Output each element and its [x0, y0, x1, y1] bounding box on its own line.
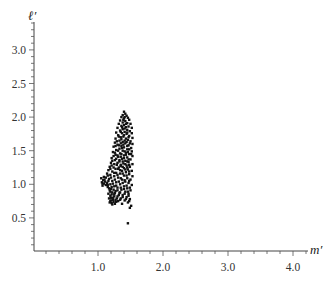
data-point [126, 187, 128, 189]
data-point [111, 203, 113, 205]
data-point [116, 154, 118, 156]
data-point [108, 187, 110, 189]
data-point [131, 175, 133, 177]
data-point [118, 135, 120, 137]
data-point [116, 197, 118, 199]
data-point [120, 156, 122, 158]
data-point [125, 141, 127, 143]
data-point [118, 144, 120, 146]
data-point [113, 195, 115, 197]
x-tick-label: 1.0 [91, 261, 106, 273]
data-point [122, 182, 124, 184]
data-point [131, 170, 133, 172]
data-point [127, 222, 129, 224]
data-point [125, 154, 127, 156]
data-point [112, 188, 114, 190]
data-point [107, 180, 109, 182]
data-point [120, 131, 122, 133]
data-point [122, 172, 124, 174]
data-point [128, 180, 130, 182]
data-point [115, 131, 117, 133]
data-point [119, 119, 121, 121]
x-tick-label: 4.0 [286, 261, 301, 273]
y-tick-label: 2.0 [12, 111, 27, 123]
data-point [110, 164, 112, 166]
data-point [117, 150, 119, 152]
data-point [126, 131, 128, 133]
data-point [131, 137, 133, 139]
data-point [118, 123, 120, 125]
data-point [122, 121, 124, 123]
data-point [126, 129, 128, 131]
axes: 0.51.01.52.02.53.0 1.02.03.04.0 ℓ′ m′ [12, 8, 323, 273]
data-point [112, 155, 114, 157]
data-point [123, 116, 125, 118]
data-point [131, 127, 133, 129]
y-axis-label: ℓ′ [28, 8, 36, 23]
data-point [131, 143, 133, 145]
data-point [124, 168, 126, 170]
y-tick-label: 1.5 [12, 145, 27, 157]
y-tick-label: 3.0 [12, 44, 27, 56]
data-point [131, 184, 133, 186]
data-point [123, 193, 125, 195]
data-point [129, 142, 131, 144]
data-point [131, 132, 133, 134]
data-point [116, 174, 118, 176]
data-point [116, 127, 118, 129]
data-point [120, 153, 122, 155]
data-point [115, 201, 117, 203]
data-point [127, 125, 129, 127]
data-point [119, 172, 121, 174]
data-point [112, 182, 114, 184]
data-point [109, 190, 111, 192]
data-point [120, 138, 122, 140]
data-point [126, 177, 128, 179]
data-point [114, 145, 116, 147]
data-point [111, 180, 113, 182]
data-point [127, 151, 129, 153]
data-point [120, 186, 122, 188]
data-point [119, 191, 121, 193]
data-point [113, 175, 115, 177]
data-point [119, 199, 121, 201]
x-axis-label: m′ [310, 242, 322, 257]
data-point [128, 164, 130, 166]
data-point [121, 203, 123, 205]
data-point [123, 185, 125, 187]
data-point [128, 173, 130, 175]
data-point [125, 123, 127, 125]
data-point [131, 150, 133, 152]
data-point [115, 181, 117, 183]
data-point [127, 190, 129, 192]
data-point [129, 123, 131, 125]
data-point [129, 189, 131, 191]
data-point [114, 168, 116, 170]
data-point [126, 160, 128, 162]
data-point [119, 183, 121, 185]
data-point [122, 119, 124, 121]
data-point [118, 180, 120, 182]
data-point [129, 186, 131, 188]
scatter-chart: 0.51.01.52.02.53.0 1.02.03.04.0 ℓ′ m′ [0, 0, 331, 288]
data-point [128, 119, 130, 121]
data-point [116, 162, 118, 164]
data-point [113, 163, 115, 165]
data-point [123, 134, 125, 136]
data-point [123, 188, 125, 190]
data-point [123, 179, 125, 181]
y-tick-label: 1.0 [12, 178, 27, 190]
data-point [110, 193, 112, 195]
data-point [114, 152, 116, 154]
data-point [110, 186, 112, 188]
data-point [115, 184, 117, 186]
data-point [128, 200, 130, 202]
data-point [122, 143, 124, 145]
data-point [115, 158, 117, 160]
x-ticks: 1.02.03.04.0 [46, 251, 306, 273]
data-point [125, 184, 127, 186]
data-point [109, 174, 111, 176]
data-point [101, 182, 103, 184]
y-tick-label: 0.5 [12, 212, 27, 224]
data-point [117, 176, 119, 178]
